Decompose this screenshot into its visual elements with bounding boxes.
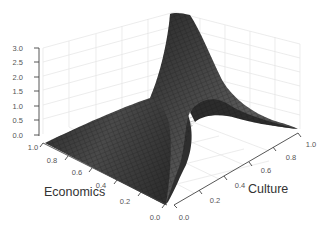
surface xyxy=(45,13,298,205)
culture-axis-title: Culture xyxy=(248,182,288,196)
z-tick-label: 0.5 xyxy=(13,116,23,125)
culture-tick-label: 0.6 xyxy=(261,166,271,175)
culture-tick-label: 0.0 xyxy=(179,213,189,222)
culture-tick-label: 0.4 xyxy=(235,181,245,190)
z-axis: 3.0 2.5 2.0 1.5 1.0 0.5 0.0 xyxy=(13,44,39,140)
z-tick-label: 1.0 xyxy=(13,102,23,111)
economics-tick-label: 0.6 xyxy=(72,168,82,177)
z-tick-label: 3.0 xyxy=(13,44,23,53)
surface-plot: 3.0 2.5 2.0 1.5 1.0 0.5 0.0 1.0 0.8 0.6 … xyxy=(0,0,325,232)
z-tick-label: 1.5 xyxy=(13,87,23,96)
economics-tick-label: 1.0 xyxy=(28,143,38,152)
z-tick-label: 0.0 xyxy=(13,131,23,140)
culture-axis: 0.0 0.2 0.4 0.6 0.8 1.0 Culture xyxy=(174,133,316,222)
economics-axis-title: Economics xyxy=(44,185,105,199)
economics-tick-label: 0.2 xyxy=(120,197,130,206)
culture-tick-label: 0.2 xyxy=(210,196,220,205)
economics-tick-label: 0.8 xyxy=(47,156,57,165)
culture-tick-label: 1.0 xyxy=(306,140,316,149)
z-tick-label: 2.5 xyxy=(13,58,23,67)
z-tick-label: 2.0 xyxy=(13,73,23,82)
culture-tick-label: 0.8 xyxy=(286,153,296,162)
economics-tick-label: 0.0 xyxy=(150,213,160,222)
